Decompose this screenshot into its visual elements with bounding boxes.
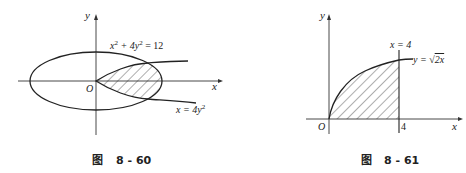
caption-number-right: 8 - 61 [384,154,419,167]
x-tick-label-4: 4 [401,121,406,132]
figure-8-60: y x O x2 + 4y2 = 12 x = 4y2 图 8 - 60 [18,9,223,167]
y-axis-arrow-icon [94,14,98,20]
x-axis-arrow-icon [458,117,463,121]
origin-label-right: O [318,121,325,132]
shaded-region-right [329,55,401,121]
parabola-equation-label: x = 4y2 [175,103,206,115]
caption-prefix-right: 图 [361,154,372,167]
x-axis-label-left: x [211,80,217,92]
origin-label-left: O [86,83,93,94]
caption-number-left: 8 - 60 [116,154,152,167]
curve-equation-label: y = √2x [412,54,445,65]
x-axis-arrow-icon [218,79,223,83]
y-axis-label-left: y [84,9,90,21]
figures-canvas: y x O x2 + 4y2 = 12 x = 4y2 图 8 - 60 y x… [0,0,466,173]
y-axis-label-right: y [319,9,325,21]
y-axis-arrow-icon [327,14,331,20]
ellipse-equation-label: x2 + 4y2 = 12 [109,39,163,51]
vertical-line-label: x = 4 [389,39,411,50]
caption-prefix-left: 图 [92,154,103,167]
figure-8-61: y x O 4 x = 4 y = √2x 图 8 - 61 [306,9,463,167]
x-axis-label-right: x [451,120,457,132]
